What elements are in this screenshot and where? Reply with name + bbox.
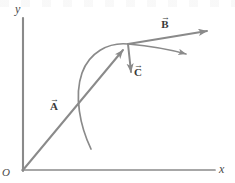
vector-b-arrow <box>128 31 207 44</box>
trajectory-curve <box>78 44 186 149</box>
vector-a-label: → A <box>50 97 58 112</box>
x-axis-label: x <box>219 163 224 175</box>
vector-c-letter: C <box>134 67 142 78</box>
y-axis-label: y <box>15 3 20 15</box>
vector-a-letter: A <box>50 101 58 112</box>
vector-c-arrow <box>128 44 131 72</box>
vector-b-letter: B <box>161 19 169 30</box>
vector-a-arrow <box>23 50 123 170</box>
vector-c-label: → C <box>134 63 142 78</box>
vector-diagram-figure: y x O → A → B → C <box>0 0 235 183</box>
vector-b-label: → B <box>161 15 169 30</box>
figure-canvas <box>0 0 235 183</box>
origin-label: O <box>2 167 10 178</box>
